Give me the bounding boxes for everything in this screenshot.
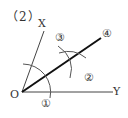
- step2-marker: ②: [84, 72, 94, 83]
- point-o-label: O: [10, 89, 19, 100]
- step1-marker: ①: [41, 98, 51, 109]
- angle-bisector-diagram: （2） X Y O ① ② ③ ④: [0, 0, 128, 118]
- ray-ox: [22, 31, 44, 92]
- point-y-label: Y: [113, 86, 120, 97]
- point-x-label: X: [38, 18, 46, 29]
- step3-marker: ③: [55, 32, 65, 43]
- step4-marker: ④: [102, 28, 112, 39]
- part-label: （2）: [6, 11, 41, 23]
